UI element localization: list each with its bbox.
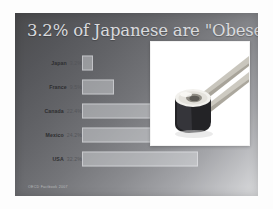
presentation-slide: 3.2% of Japanese are "Obese" Japan3.2% F… [15,13,258,196]
bar-country-name: Mexico [46,132,64,138]
bar-country-name: Canada [44,108,63,114]
bar-label-usa: USA32.2% [15,156,82,162]
slide-page: 3.2% of Japanese are "Obese" Japan3.2% F… [0,0,273,209]
sushi-roll-with-chopsticks-photo [150,41,250,146]
bar-country-name: France [49,84,67,90]
bar-label-france: France9.5% [15,84,82,90]
bar-label-mexico: Mexico24.2% [15,132,82,138]
bar-value-label: 24.2% [67,132,82,138]
table-row: USA32.2% [15,149,258,169]
bar-value-label: 22.4% [67,108,82,114]
sushi-photo-graphic [151,42,249,145]
bar-france [82,80,114,95]
bar-label-canada: Canada22.4% [15,108,82,114]
chart-source-footnote: OECD Factbook 2007 [28,185,68,189]
bar-value-label: 3.2% [70,60,82,66]
bar-country-name: USA [53,156,64,162]
bar-value-label: 32.2% [67,156,82,162]
bar-value-label: 9.5% [70,84,82,90]
bar-japan [82,56,93,71]
page-title: 3.2% of Japanese are "Obese" [27,21,258,40]
bar-usa [82,152,198,167]
bar-country-name: Japan [51,60,67,66]
bar-label-japan: Japan3.2% [15,60,82,66]
